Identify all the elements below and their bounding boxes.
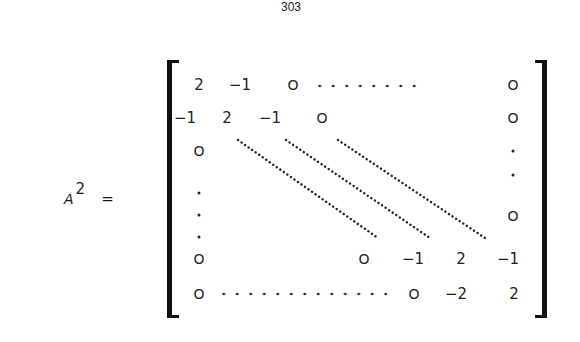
matrix-entry: −1 [402,250,424,268]
matrix-entry: 2 [509,285,519,303]
matrix-entry: O [408,286,419,302]
horizontal-ellipsis [217,292,387,296]
diagonal-ellipses [0,0,580,342]
matrix-entry: O [193,251,204,267]
matrix-entry: −1 [497,250,519,268]
matrix-entry: 2 [456,250,466,268]
matrix-entry: O [193,286,204,302]
matrix-entry: −2 [445,285,467,303]
matrix-entry: O [358,251,369,267]
